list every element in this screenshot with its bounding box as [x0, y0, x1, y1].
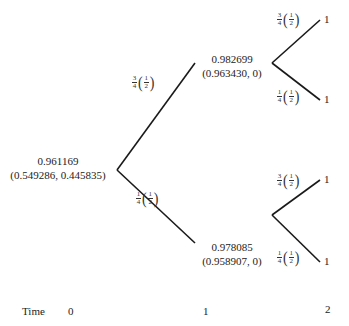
- leaf-uu: 1: [324, 13, 330, 26]
- prob-up-down: 14 ( 12 ): [276, 89, 299, 104]
- down-pair: (0.958907, 0): [194, 254, 270, 268]
- time-tick-1: 1: [203, 305, 209, 318]
- time-tick-2: 2: [325, 303, 331, 316]
- prob-up-up: 34 ( 12 ): [276, 12, 299, 27]
- down-node: 0.978085 (0.958907, 0): [194, 240, 270, 268]
- leaf-ud: 1: [324, 93, 330, 106]
- prob-root-up: 34 ( 12 ): [131, 75, 154, 90]
- up-value: 0.982699: [194, 52, 270, 66]
- edge-root-up: [117, 63, 195, 170]
- prob-root-down: 14 ( 12 ): [135, 191, 158, 206]
- root-pair: (0.549286, 0.445835): [2, 168, 114, 182]
- up-node: 0.982699 (0.963430, 0): [194, 52, 270, 80]
- root-value: 0.961169: [2, 154, 114, 168]
- prob-down-down: 14 ( 12 ): [276, 250, 299, 265]
- leaf-du: 1: [324, 173, 330, 186]
- root-node: 0.961169 (0.549286, 0.445835): [2, 154, 114, 182]
- time-axis-label: Time: [22, 305, 45, 318]
- down-value: 0.978085: [194, 240, 270, 254]
- prob-down-up: 34 ( 12 ): [276, 173, 299, 188]
- up-pair: (0.963430, 0): [194, 66, 270, 80]
- time-tick-0: 0: [68, 305, 74, 318]
- leaf-dd: 1: [324, 255, 330, 268]
